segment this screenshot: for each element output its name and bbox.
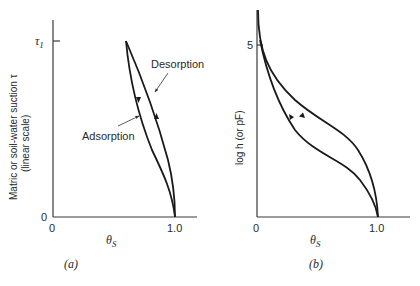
y-zero-label-a: 0: [41, 211, 47, 223]
desorption-leader: [155, 73, 168, 92]
adsorption-label: Adsorption: [82, 130, 135, 142]
x-axis-title-a: θS: [106, 233, 117, 249]
x-axis-title-b: θS: [310, 233, 321, 249]
caption-a: (a): [64, 257, 78, 271]
x-zero-label-a: 0: [49, 222, 55, 234]
adsorption-arrow-icon-b: [289, 114, 294, 120]
hysteresis-figure: τ1 0 0 1.0 θS (a) Matric or soil-water s…: [0, 0, 420, 286]
desorption-curve-b: [258, 10, 378, 217]
panel-b: 5 0 1.0 θS (b) log h (or pF): [234, 10, 410, 271]
y-axis-title-b: log h (or pF): [234, 111, 245, 165]
x-one-label-a: 1.0: [167, 222, 182, 234]
x-one-label-b: 1.0: [369, 222, 384, 234]
adsorption-curve-b: [260, 40, 378, 217]
y-axis-title-a-line1: Matric or soil-water suction τ: [8, 74, 19, 200]
caption-b: (b): [309, 257, 323, 271]
panel-a: τ1 0 0 1.0 θS (a) Matric or soil-water s…: [8, 20, 204, 271]
adsorption-leader: [118, 116, 139, 126]
y-axis-title-a-line2: (linear scale): [20, 115, 31, 172]
desorption-arrow-icon-b: [299, 113, 305, 119]
x-zero-label-b: 0: [253, 222, 259, 234]
y-five-label: 5: [247, 39, 253, 51]
desorption-label: Desorption: [151, 58, 204, 70]
tau1-label: τ1: [35, 34, 44, 50]
